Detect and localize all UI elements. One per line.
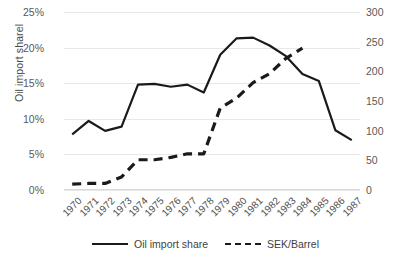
legend-swatch-dashed-line-icon — [225, 243, 261, 245]
secondary-y-axis-tick-0: 0 — [366, 184, 372, 196]
secondary-y-axis-tick-100: 100 — [366, 125, 384, 137]
series-line-sek-barrel — [72, 48, 302, 184]
secondary-y-axis-tick-150: 150 — [366, 95, 384, 107]
plot-area — [64, 12, 360, 190]
y-axis-title: Oil import sharel — [13, 8, 25, 118]
legend-label: SEK/Barrel — [267, 238, 319, 250]
gridline — [64, 190, 360, 191]
y-axis-tick-15pct: 15% — [23, 77, 44, 89]
y-axis-tick-5pct: 5% — [29, 148, 44, 160]
y-axis-tick-25pct: 25% — [23, 6, 44, 18]
secondary-y-axis-tick-250: 250 — [366, 36, 384, 48]
y-axis-tick-20pct: 20% — [23, 42, 44, 54]
series-lines — [64, 12, 360, 190]
series-line-oil-import-share — [72, 38, 352, 141]
chart-legend: Oil import shareSEK/Barrel — [0, 238, 411, 250]
legend-swatch-solid-line-icon — [92, 243, 128, 245]
legend-label: Oil import share — [134, 238, 208, 250]
legend-item-oil-import-share[interactable]: Oil import share — [92, 238, 208, 250]
y-axis-tick-0pct: 0% — [29, 184, 44, 196]
y-axis-tick-10pct: 10% — [23, 113, 44, 125]
secondary-y-axis-tick-300: 300 — [366, 6, 384, 18]
x-axis-tick-labels: 1970197119721973197419751976197719781979… — [64, 193, 360, 239]
secondary-y-axis-tick-200: 200 — [366, 65, 384, 77]
oil-import-share-chart: Oil import sharel 0%5%10%15%20%25% 05010… — [0, 0, 411, 263]
secondary-y-axis-tick-50: 50 — [366, 154, 378, 166]
legend-item-sek-barrel[interactable]: SEK/Barrel — [225, 238, 319, 250]
